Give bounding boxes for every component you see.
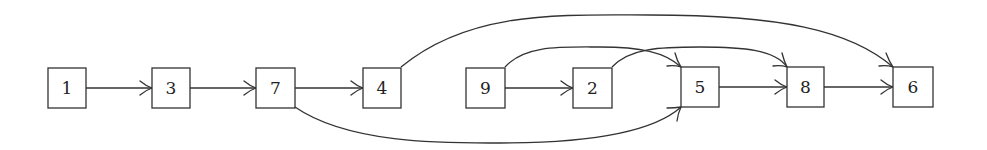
edge-7-5 (295, 107, 681, 143)
node-6: 6 (893, 67, 933, 107)
node-7: 7 (256, 68, 295, 108)
svg-text:3: 3 (166, 78, 177, 98)
node-1: 1 (48, 68, 86, 108)
node-9: 9 (466, 68, 505, 108)
svg-text:2: 2 (587, 78, 598, 98)
graph-diagram: 1 3 7 4 9 2 5 8 (0, 0, 987, 150)
edge-9-5 (505, 47, 681, 67)
svg-text:6: 6 (908, 77, 919, 97)
edge-4-6 (401, 15, 893, 67)
svg-text:4: 4 (377, 78, 388, 98)
svg-text:9: 9 (480, 78, 491, 98)
svg-text:1: 1 (62, 78, 73, 98)
nodes: 1 3 7 4 9 2 5 8 (48, 67, 933, 108)
node-4: 4 (363, 68, 401, 108)
svg-text:5: 5 (695, 77, 706, 97)
node-3: 3 (152, 68, 190, 108)
svg-text:8: 8 (800, 77, 811, 97)
svg-text:7: 7 (270, 78, 281, 98)
edge-2-8 (612, 47, 787, 67)
node-8: 8 (787, 67, 824, 107)
node-5: 5 (681, 67, 719, 107)
node-2: 2 (573, 68, 612, 108)
